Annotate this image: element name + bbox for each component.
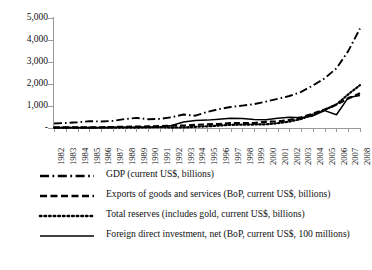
legend-line-swatch (38, 228, 100, 242)
x-tick-label: 2001 (281, 148, 290, 165)
x-tick-label: 1984 (81, 148, 90, 165)
y-tick-label: 3,000 (2, 57, 48, 67)
x-tick-label: 1986 (104, 148, 113, 165)
x-tick-label: 1994 (198, 148, 207, 165)
y-tick-label: 2,000 (2, 79, 48, 89)
x-tick-label: 1992 (175, 148, 184, 165)
x-tick-label: 1983 (69, 148, 78, 165)
legend-label: Exports of goods and services (BoP, curr… (100, 188, 330, 199)
series-line-4 (54, 96, 360, 128)
x-tick-label: 1987 (116, 148, 125, 165)
y-axis-labels: -1,0002,0003,0004,0005,000 (0, 0, 48, 140)
x-tick-label: 2000 (269, 148, 278, 165)
x-tick-label: 1995 (210, 148, 219, 165)
x-tick (360, 128, 361, 132)
legend-label: Total reserves (includes gold, current U… (100, 208, 305, 219)
y-tick-label: - (2, 123, 48, 133)
plot-area (54, 18, 360, 128)
x-tick-label: 1991 (163, 148, 172, 165)
x-tick-label: 2002 (293, 148, 302, 165)
series-line-3 (54, 85, 360, 128)
y-tick-label: 4,000 (2, 35, 48, 45)
x-tick-label: 2004 (316, 148, 325, 165)
legend-label: GDP (current US$, billions) (100, 168, 214, 179)
x-tick-label: 1982 (57, 148, 66, 165)
x-tick-label: 2006 (340, 148, 349, 165)
series-line-2 (54, 93, 360, 127)
legend-item[interactable]: GDP (current US$, billions) (0, 168, 372, 188)
x-tick-label: 1993 (187, 148, 196, 165)
x-tick-label: 2008 (363, 148, 372, 165)
x-tick-label: 2003 (304, 148, 313, 165)
x-tick-label: 1990 (151, 148, 160, 165)
series-line-1 (54, 29, 360, 124)
x-tick-label: 2007 (351, 148, 360, 165)
x-tick-label: 1997 (234, 148, 243, 165)
y-tick-label: 1,000 (2, 101, 48, 111)
x-tick-label: 1989 (140, 148, 149, 165)
legend-label: Foreign direct investment, net (BoP, cur… (100, 228, 350, 239)
legend-line-swatch (38, 208, 100, 222)
chart-figure: -1,0002,0003,0004,0005,000 1982198319841… (0, 0, 372, 270)
y-tick-label: 5,000 (2, 13, 48, 23)
legend-item[interactable]: Total reserves (includes gold, current U… (0, 208, 372, 228)
x-tick-label: 1988 (128, 148, 137, 165)
legend-line-swatch (38, 188, 100, 202)
x-tick-label: 1985 (93, 148, 102, 165)
x-tick-label: 1999 (257, 148, 266, 165)
chart-legend: GDP (current US$, billions)Exports of go… (0, 168, 372, 248)
x-axis-year-labels: 1982198319841985198619871988198919901991… (54, 131, 360, 165)
x-tick-label: 1998 (246, 148, 255, 165)
legend-item[interactable]: Foreign direct investment, net (BoP, cur… (0, 228, 372, 248)
x-tick-label: 1996 (222, 148, 231, 165)
legend-line-swatch (38, 168, 100, 182)
legend-item[interactable]: Exports of goods and services (BoP, curr… (0, 188, 372, 208)
series-container (54, 18, 360, 128)
x-tick-label: 2005 (328, 148, 337, 165)
